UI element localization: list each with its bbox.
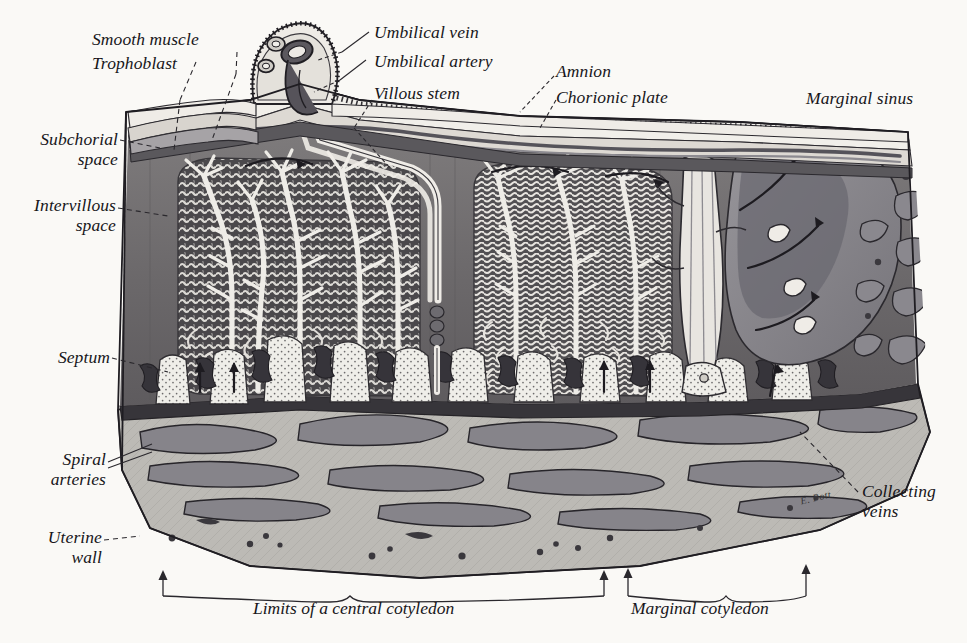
label-uterine-wall: Uterine wall xyxy=(0,528,102,567)
label-marginal-sinus: Marginal sinus xyxy=(806,89,913,109)
umbilical-cord xyxy=(252,23,337,114)
label-subchorial-space: Subchorial space xyxy=(0,130,118,169)
figure-canvas: Smooth muscle Trophoblast Umbilical vein… xyxy=(0,0,967,643)
label-septum: Septum xyxy=(0,348,110,368)
label-umbilical-vein: Umbilical vein xyxy=(374,23,479,43)
caption-marginal-cotyledon: Marginal cotyledon xyxy=(631,598,769,619)
label-intervillous-space: Intervillous space xyxy=(0,196,116,235)
label-collecting-veins: Collecting veins xyxy=(862,482,936,521)
label-spiral-arteries: Spiral arteries xyxy=(0,450,106,489)
label-chorionic-plate: Chorionic plate xyxy=(556,88,668,108)
label-villous-stem: Villous stem xyxy=(374,84,460,104)
label-trophoblast: Trophoblast xyxy=(92,54,177,74)
label-smooth-muscle: Smooth muscle xyxy=(92,30,199,50)
caption-central-cotyledon: Limits of a central cotyledon xyxy=(253,598,454,619)
label-amnion: Amnion xyxy=(556,62,611,82)
label-umbilical-artery: Umbilical artery xyxy=(374,52,493,72)
